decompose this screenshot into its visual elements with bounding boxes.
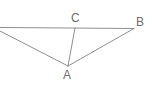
diagonal-left-edge-to-A — [0, 31, 68, 66]
point-label-b: B — [136, 16, 144, 28]
point-label-a: A — [63, 69, 71, 81]
segment-A-to-B — [68, 29, 134, 67]
point-label-c: C — [71, 12, 80, 24]
horizontal-line-through-C-to-B — [0, 28, 134, 29]
geometry-figure: C B A — [0, 0, 152, 98]
segment-C-to-A — [68, 28, 75, 66]
